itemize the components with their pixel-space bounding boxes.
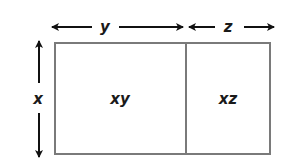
label-z: z: [223, 18, 233, 36]
label-x: x: [32, 90, 44, 108]
dimension-z: z: [189, 18, 274, 36]
label-y: y: [100, 18, 111, 36]
area-model-diagram: y z x xy xz: [0, 0, 296, 161]
region-xz-label: xz: [218, 90, 238, 108]
region-xy-label: xy: [109, 90, 131, 108]
dimension-y: y: [52, 18, 183, 36]
dimension-x: x: [32, 41, 44, 157]
outer-rectangle: [55, 43, 270, 154]
